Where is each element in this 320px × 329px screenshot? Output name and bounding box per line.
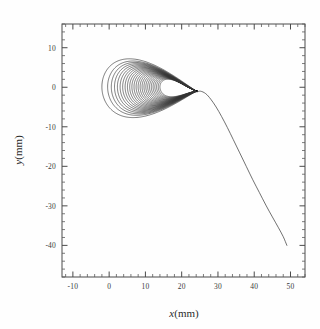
escape-trajectory-path xyxy=(197,91,287,245)
figure-panel: -1001020304050 100-10-20-30-40 x(mm) y(m… xyxy=(0,0,320,329)
y-tick-label: -20 xyxy=(45,162,56,171)
x-tick-label: 30 xyxy=(214,282,222,291)
x-tick-label: 0 xyxy=(107,282,111,291)
axes-frame xyxy=(62,24,305,277)
x-tick-label: 50 xyxy=(287,282,295,291)
y-tick-label: 10 xyxy=(48,44,56,53)
y-tick-label: 0 xyxy=(52,83,56,92)
axis-ticks xyxy=(62,24,305,277)
y-axis-tick-labels: 100-10-20-30-40 xyxy=(45,44,56,251)
x-tick-label: 20 xyxy=(178,282,186,291)
x-tick-label: -10 xyxy=(68,282,79,291)
y-tick-label: -10 xyxy=(45,123,56,132)
x-tick-label: 10 xyxy=(141,282,149,291)
y-axis-title: y(mm) xyxy=(12,135,25,166)
escape-trajectory-curve xyxy=(197,91,287,245)
nested-loop-family-curves xyxy=(102,59,197,118)
x-tick-label: 40 xyxy=(250,282,258,291)
y-tick-label: -30 xyxy=(45,202,56,211)
x-axis-tick-labels: -1001020304050 xyxy=(68,282,295,291)
scatter-plot-canvas: -1001020304050 100-10-20-30-40 x(mm) y(m… xyxy=(0,0,320,329)
y-tick-label: -40 xyxy=(45,241,56,250)
x-axis-title: x(mm) xyxy=(168,307,199,320)
